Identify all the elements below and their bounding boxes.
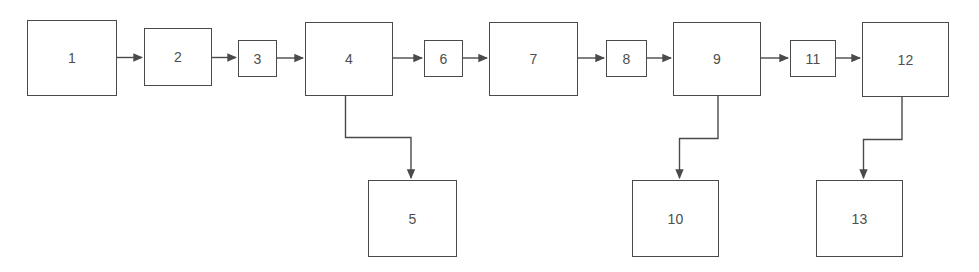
node-6[interactable]: 6 (424, 40, 463, 77)
node-8[interactable]: 8 (606, 40, 647, 77)
node-7-label: 7 (530, 52, 538, 66)
node-3-label: 3 (254, 52, 262, 66)
node-1[interactable]: 1 (27, 20, 117, 96)
node-9-label: 9 (713, 52, 721, 66)
node-5-label: 5 (409, 212, 417, 226)
node-4[interactable]: 4 (305, 22, 393, 96)
node-2[interactable]: 2 (144, 28, 212, 86)
node-7[interactable]: 7 (489, 22, 578, 96)
node-10-label: 10 (668, 212, 684, 226)
node-8-label: 8 (623, 52, 631, 66)
node-10[interactable]: 10 (632, 180, 719, 257)
edge-12-to-13 (864, 97, 903, 178)
node-12-label: 12 (898, 53, 914, 67)
edge-4-to-5 (346, 96, 412, 178)
node-5[interactable]: 5 (368, 180, 457, 257)
node-9[interactable]: 9 (673, 22, 761, 96)
node-13-label: 13 (852, 212, 868, 226)
node-11-label: 11 (806, 52, 821, 66)
flowchart-diagram: 1 2 3 4 5 6 7 8 9 10 11 12 13 (0, 0, 979, 272)
node-3[interactable]: 3 (238, 40, 277, 77)
node-13[interactable]: 13 (816, 180, 903, 257)
node-1-label: 1 (68, 51, 76, 65)
node-11[interactable]: 11 (790, 40, 836, 77)
edge-9-to-10 (680, 96, 719, 178)
node-2-label: 2 (174, 50, 182, 64)
node-6-label: 6 (440, 52, 448, 66)
node-12[interactable]: 12 (862, 22, 949, 97)
node-4-label: 4 (345, 52, 353, 66)
